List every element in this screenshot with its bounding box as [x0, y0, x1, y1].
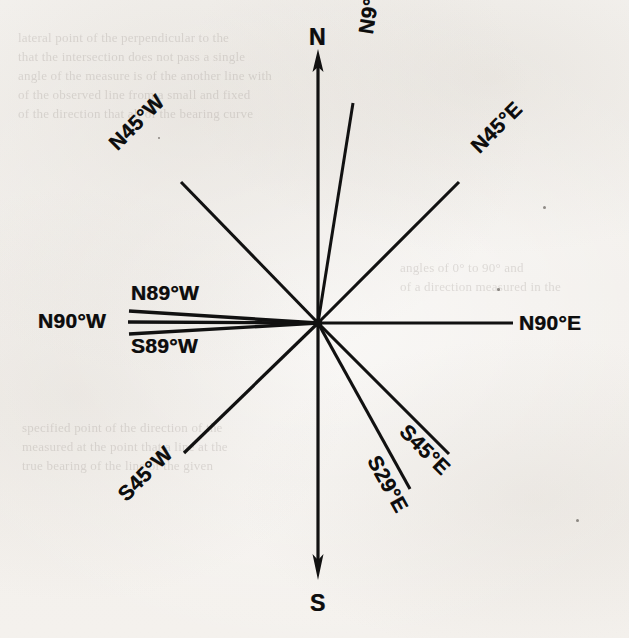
label-n90w: N90°W — [38, 309, 106, 333]
south-axis — [313, 323, 324, 580]
ray-n45w — [181, 182, 318, 323]
origin-point — [314, 319, 323, 328]
ray-s89w — [129, 323, 318, 334]
compass-bearing-figure: lateral point of the perpendicular to th… — [0, 0, 629, 638]
label-s89w: S89°W — [131, 334, 198, 358]
label-n90e: N90°E — [519, 311, 581, 335]
label-n89w: N89°W — [131, 281, 199, 305]
ray-s45w — [184, 323, 318, 453]
label-south: S — [310, 590, 325, 617]
label-north: N — [309, 24, 326, 51]
ray-s45e — [318, 323, 449, 454]
ray-n45e — [318, 182, 459, 323]
ray-n9e — [318, 103, 353, 323]
ray-n90w — [128, 322, 318, 323]
north-axis — [313, 49, 324, 323]
